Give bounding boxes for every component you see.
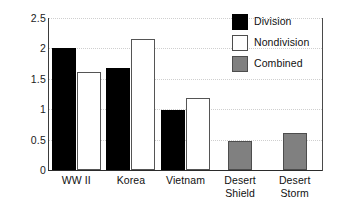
legend-swatch-combined bbox=[232, 56, 248, 72]
legend-swatch-nondivision bbox=[232, 35, 248, 51]
y-axis-tick-label: 1 bbox=[2, 104, 46, 114]
bar bbox=[161, 110, 185, 170]
y-axis-tick-label: 1.5 bbox=[2, 74, 46, 84]
x-axis-category-label-line: Vietnam bbox=[158, 174, 213, 187]
x-axis-line bbox=[48, 170, 323, 171]
bar bbox=[77, 72, 101, 170]
bar bbox=[131, 39, 155, 170]
y-axis-tick-label: 0 bbox=[2, 165, 46, 175]
legend-label: Nondivision bbox=[254, 36, 309, 48]
bar bbox=[228, 141, 252, 170]
bar bbox=[52, 48, 76, 170]
legend-label: Division bbox=[254, 15, 292, 27]
legend-item: Division bbox=[232, 13, 332, 34]
y-axis-tick-labels: 00.511.522.5 bbox=[0, 0, 46, 214]
x-axis-category-label: Korea bbox=[104, 174, 159, 187]
x-axis-category-label: DesertStorm bbox=[267, 174, 322, 199]
x-axis-category-label-line: Desert bbox=[267, 174, 322, 187]
x-axis-category-label: Vietnam bbox=[158, 174, 213, 187]
x-axis-category-label-line: Korea bbox=[104, 174, 159, 187]
y-axis-tick-label: 2 bbox=[2, 43, 46, 53]
x-axis-category-label-line: WW II bbox=[49, 174, 104, 187]
y-axis-tick-label: 2.5 bbox=[2, 13, 46, 23]
x-axis-category-label: WW II bbox=[49, 174, 104, 187]
x-axis-category-label: DesertShield bbox=[213, 174, 268, 199]
bar bbox=[283, 133, 307, 170]
bar bbox=[186, 98, 210, 170]
legend-swatch-division bbox=[232, 14, 248, 30]
x-axis-category-label-line: Desert bbox=[213, 174, 268, 187]
bar-chart: 00.511.522.5 WW IIKoreaVietnamDesertShie… bbox=[0, 0, 338, 214]
legend: DivisionNondivisionCombined bbox=[232, 13, 332, 76]
x-axis-category-label-line: Storm bbox=[267, 187, 322, 200]
bar bbox=[106, 68, 130, 170]
legend-item: Nondivision bbox=[232, 34, 332, 55]
x-axis-category-labels: WW IIKoreaVietnamDesertShieldDesertStorm bbox=[49, 174, 322, 214]
x-axis-category-label-line: Shield bbox=[213, 187, 268, 200]
legend-item: Combined bbox=[232, 55, 332, 76]
legend-label: Combined bbox=[254, 57, 303, 69]
y-axis-tick-label: 0.5 bbox=[2, 135, 46, 145]
